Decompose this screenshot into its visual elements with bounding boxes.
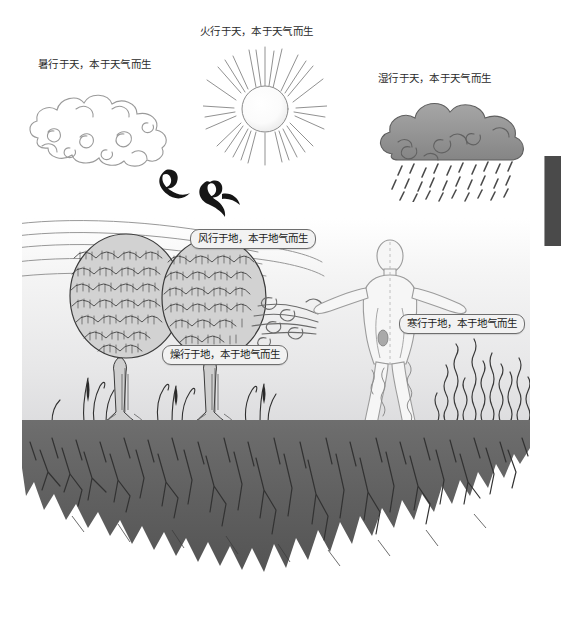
two-flying-birds-icon — [152, 166, 252, 226]
callout-wind: 风行于地，本于地气而生 — [190, 229, 316, 249]
tree-right — [162, 238, 266, 424]
callout-cold: 寒行于地，本于地气而生 — [399, 314, 525, 334]
illustration-page: 暑行于天，本于天气而生 火行于天，本于天气而生 湿行于天，本于天气而生 — [0, 0, 561, 634]
wavy-grass-reeds — [435, 339, 530, 423]
sky-label-fire: 火行于天，本于天气而生 — [200, 26, 313, 37]
sky-label-damp: 湿行于天，本于天气而生 — [378, 73, 491, 84]
callout-dry: 燥行于地，本于地气而生 — [162, 345, 288, 365]
standing-human-figure — [314, 240, 466, 428]
wind-swirls — [252, 298, 323, 348]
sky-label-heat: 暑行于天，本于天气而生 — [38, 59, 151, 70]
rain-cloud-icon — [368, 92, 534, 202]
grass-sprouts — [52, 378, 276, 422]
tree-left — [70, 234, 182, 424]
radiant-sun-icon — [203, 45, 327, 167]
jagged-earth-mass — [22, 420, 530, 600]
page-edge-tab — [544, 156, 561, 246]
auspicious-cloud-outline-icon — [24, 76, 184, 171]
